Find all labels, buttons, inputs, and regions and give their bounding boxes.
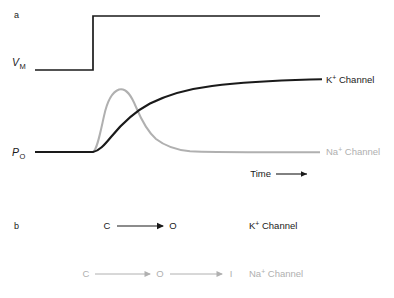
time-axis-arrow [276,171,307,176]
membrane-voltage-step-trace [35,16,320,70]
na-scheme-state-closed: C [83,268,90,279]
figure-canvas: a VM PO K+ Channel Na+ Channel Time b C … [0,0,394,298]
time-axis-label: Time [250,168,271,179]
k-scheme-arrow-c-to-o [117,223,164,229]
voltage-axis-label: VM [12,56,26,71]
open-probability-subscript: O [20,152,26,161]
k-scheme-state-closed: C [104,220,111,231]
k-channel-trace-label: K+ Channel [326,74,374,86]
na-channel-open-probability-curve [35,89,320,152]
na-channel-trace-label: Na+ Channel [326,146,380,158]
na-channel-trace-label-main: Na [326,146,339,157]
k-channel-trace-label-rest: Channel [336,74,374,85]
open-probability-axis-label: PO [12,146,26,161]
na-scheme-channel-label: Na+ Channel [249,268,303,280]
k-scheme-channel-label-rest: Channel [259,220,297,231]
na-scheme-state-open: O [156,268,163,279]
na-scheme-arrow-o-to-i [170,271,223,277]
k-scheme-state-open: O [169,220,176,231]
k-channel-open-probability-curve [35,79,322,152]
na-channel-trace-label-rest: Channel [342,146,380,157]
na-scheme-arrow-c-to-o [95,271,151,277]
na-scheme-channel-label-rest: Channel [265,268,303,279]
panel-a-label: a [14,10,19,20]
figure-root: a VM PO K+ Channel Na+ Channel Time b C … [0,0,394,298]
na-scheme-channel-label-main: Na [249,268,262,279]
k-scheme-channel-label: K+ Channel [249,220,297,232]
open-probability-symbol: P [12,146,19,158]
voltage-subscript: M [20,62,26,71]
na-scheme-state-inactivated: I [230,268,233,279]
panel-b-label: b [14,221,19,231]
